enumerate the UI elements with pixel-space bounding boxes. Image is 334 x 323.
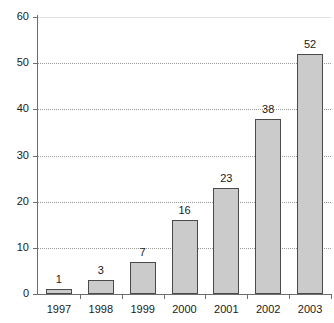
y-axis-tick-label: 10 xyxy=(4,242,29,253)
bar-value-label: 3 xyxy=(81,265,121,276)
x-axis-tick-mark xyxy=(331,294,332,299)
x-axis-tick-label: 1997 xyxy=(37,303,81,315)
x-axis-tick-mark xyxy=(289,294,290,299)
x-axis-tick-mark xyxy=(80,294,81,299)
y-axis-tick-mark xyxy=(33,17,38,18)
x-axis-tick-label: 1998 xyxy=(79,303,123,315)
y-axis-tick-mark xyxy=(33,294,38,295)
bar-value-label: 52 xyxy=(290,39,330,50)
bar xyxy=(88,280,114,294)
bar xyxy=(297,54,323,294)
x-axis-tick-mark xyxy=(205,294,206,299)
y-axis-tick-label: 60 xyxy=(4,11,29,22)
gridline xyxy=(38,156,331,157)
y-axis-tick-label: 20 xyxy=(4,196,29,207)
bar-value-label: 16 xyxy=(165,205,205,216)
bar-value-label: 7 xyxy=(123,247,163,258)
gridline xyxy=(38,63,331,64)
bar xyxy=(172,220,198,294)
y-axis-tick-label: 50 xyxy=(4,57,29,68)
bar xyxy=(46,289,72,294)
bar-value-label: 1 xyxy=(39,274,79,285)
gridline xyxy=(38,17,331,18)
y-axis-tick-mark xyxy=(33,248,38,249)
bar xyxy=(255,119,281,294)
x-axis-line xyxy=(37,294,331,295)
x-axis-tick-label: 1999 xyxy=(121,303,165,315)
y-axis-tick-mark xyxy=(33,109,38,110)
x-axis-tick-label: 2003 xyxy=(288,303,332,315)
bar xyxy=(213,188,239,294)
gridline xyxy=(38,202,331,203)
bar-value-label: 38 xyxy=(248,104,288,115)
y-axis-tick-mark xyxy=(33,202,38,203)
bar-chart: 0102030405060 19971998199920002001200220… xyxy=(0,0,334,323)
x-axis-tick-mark xyxy=(122,294,123,299)
x-axis-tick-label: 2001 xyxy=(204,303,248,315)
x-axis-tick-mark xyxy=(164,294,165,299)
y-axis-tick-mark xyxy=(33,156,38,157)
x-axis-tick-label: 2000 xyxy=(163,303,207,315)
y-axis-tick-label: 40 xyxy=(4,103,29,114)
y-axis-tick-mark xyxy=(33,63,38,64)
y-axis-tick-label: 30 xyxy=(4,150,29,161)
bar-value-label: 23 xyxy=(206,173,246,184)
x-axis-tick-label: 2002 xyxy=(246,303,290,315)
bar xyxy=(130,262,156,294)
x-axis-tick-mark xyxy=(247,294,248,299)
y-axis-tick-label: 0 xyxy=(4,288,29,299)
